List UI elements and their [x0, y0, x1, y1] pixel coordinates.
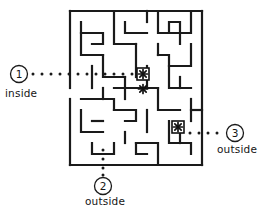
callout-3-label: outside [217, 144, 257, 155]
maze-figure: 123 [0, 0, 265, 216]
asterisk-top-glyph [139, 70, 148, 79]
asterisk-top [137, 68, 149, 80]
callout-path-dot [86, 73, 89, 76]
callout-path-dot [102, 158, 105, 161]
callout-path-dot [198, 132, 201, 135]
asterisk-lower-right [172, 121, 184, 133]
callout-path-dot [32, 73, 35, 76]
asterisk-middle-glyph [139, 85, 148, 94]
callout-path-dot [77, 73, 80, 76]
callout-path-dot [95, 73, 98, 76]
callout-2-number: 2 [100, 180, 107, 192]
callout-path-dot [104, 73, 107, 76]
callout-3-badge: 3 [227, 125, 244, 142]
callout-path-dot [113, 73, 116, 76]
callout-path-dot [41, 73, 44, 76]
callout-path-dot [131, 73, 134, 76]
callout-path-dot [102, 167, 105, 170]
callout-path-dot [189, 132, 192, 135]
callout-path-dot [102, 149, 105, 152]
asterisk-middle [139, 85, 148, 94]
callout-path-dot [102, 174, 105, 177]
callout-path-dot [59, 73, 62, 76]
callout-2-label: outside [85, 196, 125, 207]
callout-path-dot [122, 73, 125, 76]
callout-1-label: inside [5, 88, 37, 99]
callout-1-number: 1 [16, 68, 23, 80]
callout-path-dot [68, 73, 71, 76]
callout-2-badge: 2 [95, 178, 112, 195]
figure-canvas: 123 inside outside outside [0, 0, 265, 216]
callout-1-badge: 1 [11, 66, 28, 83]
callout-path-dot [216, 132, 219, 135]
callout-path-dot [207, 132, 210, 135]
callout-path-dot [50, 73, 53, 76]
asterisk-lower-right-glyph [174, 123, 183, 132]
callout-3-number: 3 [232, 127, 239, 139]
